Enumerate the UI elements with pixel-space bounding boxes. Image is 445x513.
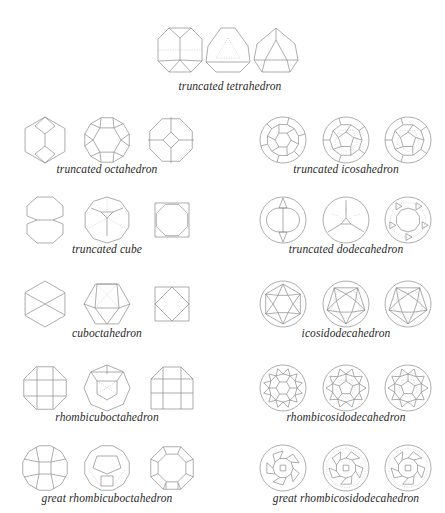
cuboctahedron-view-2-icon [81,278,133,330]
archimedean-solids-diagram: truncated tetrahedrontruncated octahedro… [0,0,445,513]
truncated-cube-view-2-icon [81,194,133,246]
great-rhombicuboctahedron-view-2-icon [81,442,133,494]
great-rhombicosidodecahedron-view-3-icon [382,442,434,494]
rhombicosidodecahedron-view-3-icon [382,362,434,414]
truncated-octahedron-view-3-icon [145,114,197,166]
truncated-icosahedron-label: truncated icosahedron [293,163,398,175]
truncated-tetrahedron-view-3-icon [250,24,302,76]
great-rhombicuboctahedron-view-1-icon [19,442,71,494]
great-rhombicosidodecahedron-view-2-icon [320,442,372,494]
truncated-icosahedron-view-1-icon [257,114,309,166]
truncated-cube-label: truncated cube [72,243,142,255]
rhombicuboctahedron-view-1-icon [19,362,71,414]
truncated-dodecahedron-label: truncated dodecahedron [289,243,404,255]
truncated-tetrahedron-label: truncated tetrahedron [179,80,282,92]
icosidodecahedron-view-1-icon [257,278,309,330]
cuboctahedron-label: cuboctahedron [72,327,142,339]
truncated-octahedron-view-2-icon [81,114,133,166]
truncated-cube-view-3-icon [146,194,198,246]
icosidodecahedron-view-3-icon [382,278,434,330]
rhombicuboctahedron-view-2-icon [81,362,133,414]
great-rhombicuboctahedron-label: great rhombicuboctahedron [42,492,173,504]
truncated-dodecahedron-view-3-icon [382,194,434,246]
truncated-cube-view-1-icon [19,194,71,246]
truncated-icosahedron-view-3-icon [382,114,434,166]
rhombicosidodecahedron-label: rhombicosidodecahedron [286,411,405,423]
rhombicuboctahedron-label: rhombicuboctahedron [55,411,158,423]
truncated-tetrahedron-view-1-icon [154,24,206,76]
great-rhombicuboctahedron-view-3-icon [146,442,198,494]
truncated-dodecahedron-view-1-icon [257,194,309,246]
rhombicosidodecahedron-view-2-icon [320,362,372,414]
truncated-octahedron-label: truncated octahedron [57,163,158,175]
truncated-dodecahedron-view-2-icon [320,194,372,246]
great-rhombicosidodecahedron-label: great rhombicosidodecahedron [273,492,419,504]
truncated-octahedron-view-1-icon [19,114,71,166]
cuboctahedron-view-1-icon [19,278,71,330]
rhombicuboctahedron-view-3-icon [146,362,198,414]
great-rhombicosidodecahedron-view-1-icon [257,442,309,494]
icosidodecahedron-label: icosidodecahedron [302,327,391,339]
icosidodecahedron-view-2-icon [320,278,372,330]
cuboctahedron-view-3-icon [146,278,198,330]
rhombicosidodecahedron-view-1-icon [257,362,309,414]
truncated-icosahedron-view-2-icon [320,114,372,166]
truncated-tetrahedron-view-2-icon [202,24,254,76]
